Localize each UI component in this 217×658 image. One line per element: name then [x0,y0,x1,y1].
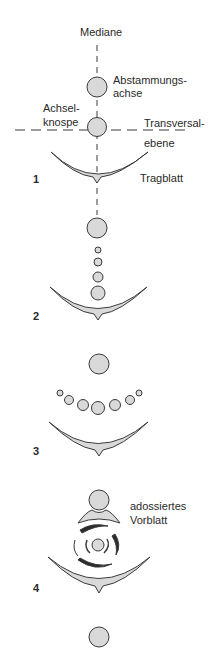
spiral-leaf [104,539,108,553]
mother-axis-circle [87,77,107,97]
leaf-primordium-circle [92,402,105,415]
label-tragblatt: Tragblatt [140,172,183,185]
mother-axis-circle [87,218,107,238]
panel-3 [49,354,148,456]
panel-number-3: 3 [33,445,39,457]
label-transversalebene-1: Transversal- [144,117,205,130]
leaf-primordium-circle [110,400,121,411]
leaf-primordium-circle [93,272,103,282]
panel-number-2: 2 [33,310,39,322]
label-mediane: Mediane [80,26,122,39]
leaf-primordium-circle [95,247,101,253]
diagram-canvas [0,0,217,658]
bud-circle [92,539,104,551]
leaf-primordium-circle [126,396,135,405]
axillary-bud-circle [88,118,107,137]
mother-axis-circle [89,354,109,374]
mother-axis-circle-bottom [89,627,109,647]
label-achselknospe-2: knospe [43,116,78,129]
spiral-leaf [80,525,108,533]
leaf-primordium-circle [65,396,74,405]
adossed-prophyll [78,510,120,523]
panel-2 [50,218,147,320]
label-transversalebene-2: ebene [144,137,175,150]
spiral-leaf [74,540,78,556]
subtending-leaf-crescent [49,422,148,456]
leaf-primordium-circle [91,286,105,300]
leaf-primordium-circle [57,390,63,396]
panel-1 [15,45,185,215]
spiral-leaf [86,540,90,553]
label-adossiertes-vorblatt-2: Vorblatt [130,514,167,527]
spiral-leaf [112,534,119,555]
subtending-leaf-crescent [48,557,150,593]
label-abstammungsachse-2: achse [113,87,142,100]
leaf-primordium-circle [94,258,102,266]
leaf-primordium-circle [78,400,89,411]
label-adossiertes-vorblatt-1: adossiertes [130,500,186,513]
panel-number-1: 1 [33,173,39,185]
label-achselknospe-1: Achsel- [43,102,80,115]
label-abstammungsachse-1: Abstammungs- [113,74,187,87]
leaf-primordium-circle [136,390,142,396]
spiral-leaf [78,558,112,567]
panel-number-4: 4 [33,582,39,594]
subtending-leaf-crescent [51,152,148,183]
mother-axis-circle [89,490,109,510]
